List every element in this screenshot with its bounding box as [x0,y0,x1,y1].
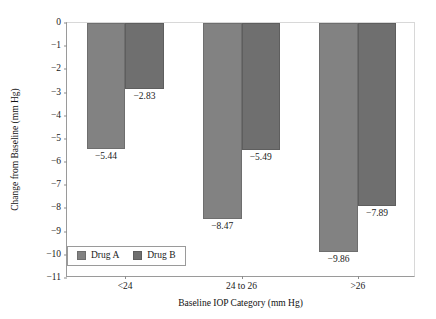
x-tick-label: <24 [118,282,133,292]
y-tick-label: −2 [51,65,67,75]
bar-value-label: −5.49 [250,153,272,163]
y-tick-label: −7 [51,181,67,191]
x-tick-mark [125,276,126,279]
y-tick-label: 0 [56,18,67,28]
y-tick-label: −1 [51,41,67,51]
bar-value-label: −9.86 [328,255,350,265]
y-tick-label: −10 [46,250,67,260]
bar [358,23,397,206]
y-tick-label: −9 [51,227,67,237]
chart-legend: Drug ADrug B [67,246,186,266]
x-axis-title: Baseline IOP Category (mm Hg) [66,298,415,308]
bar-chart: Change from Baseline (mm Hg) 0−1−2−3−4−5… [0,0,436,319]
bar-value-label: −5.44 [95,152,117,162]
y-tick-label: −11 [46,273,67,283]
y-tick-label: −8 [51,204,67,214]
bar-value-label: −7.89 [366,209,388,219]
bar-value-label: −2.83 [133,92,155,102]
x-tick-mark [242,276,243,279]
y-tick-label: −5 [51,134,67,144]
y-axis-title: Change from Baseline (mm Hg) [8,22,22,277]
y-tick-label: −4 [51,111,67,121]
bar [319,23,358,252]
legend-label: Drug A [91,251,119,261]
x-tick-mark [358,276,359,279]
bar [87,23,126,149]
bar-value-label: −8.47 [211,222,233,232]
plot-area: 0−1−2−3−4−5−6−7−8−9−10−11 <2424 to 26>26… [66,22,415,277]
y-tick-label: −3 [51,88,67,98]
bar [242,23,281,150]
x-tick-label: 24 to 26 [226,282,257,292]
legend-entry: Drug A [77,251,119,261]
legend-entry: Drug B [133,251,175,261]
legend-swatch-icon [133,251,142,260]
bar [203,23,242,219]
y-tick-label: −6 [51,157,67,167]
legend-label: Drug B [147,251,175,261]
x-tick-label: >26 [350,282,365,292]
bar [125,23,164,89]
legend-swatch-icon [77,251,86,260]
